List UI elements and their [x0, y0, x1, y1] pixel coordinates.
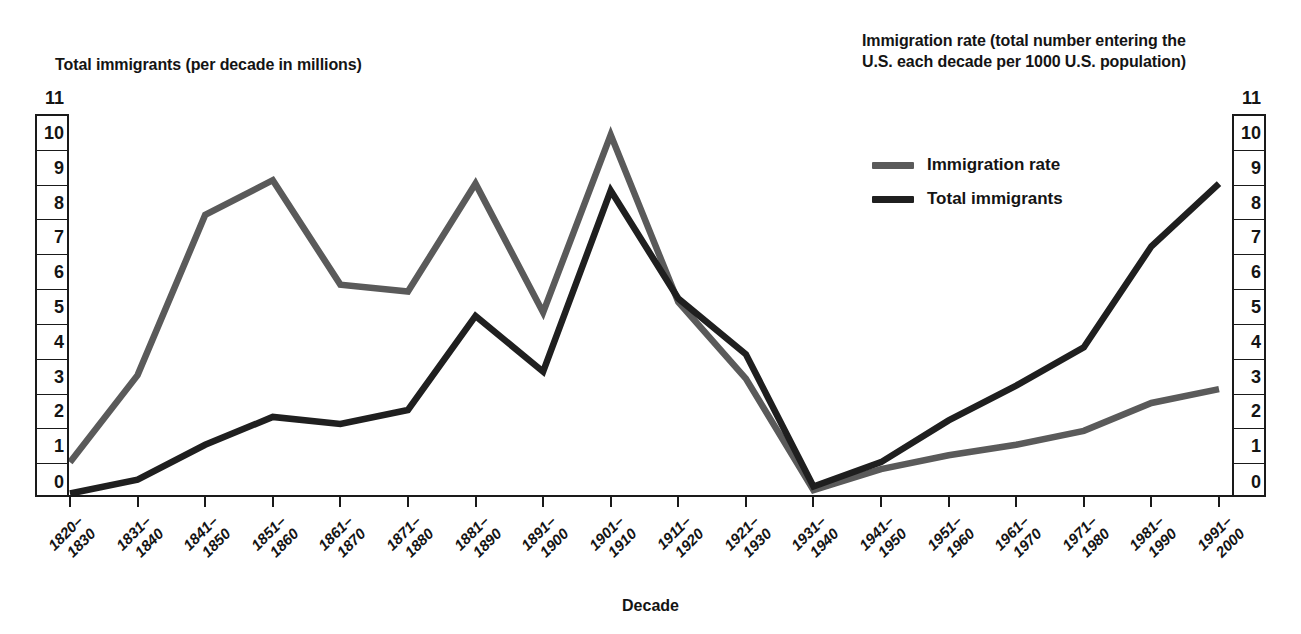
x-axis-tick: [407, 497, 409, 507]
x-axis-tick: [610, 497, 612, 507]
axis-value-label: 6: [1251, 263, 1261, 281]
axis-value-cell: 3: [1234, 360, 1264, 395]
axis-value-cell: 6: [1234, 255, 1264, 290]
axis-value-cell: 1: [1234, 429, 1264, 464]
axis-value-cell: 4: [37, 325, 67, 360]
axis-value-cell: 2: [37, 395, 67, 430]
axis-value-label: 2: [54, 402, 64, 420]
x-axis-tick: [677, 497, 679, 507]
axis-value-cell: 3: [37, 360, 67, 395]
right-value-axis: 109876543210: [1232, 114, 1266, 497]
axis-value-cell: 10: [1234, 116, 1264, 151]
x-axis-tick: [812, 497, 814, 507]
legend-swatch-icon: [872, 162, 914, 169]
chart-legend: Immigration rateTotal immigrants: [872, 148, 1063, 216]
axis-value-label: 7: [54, 228, 64, 246]
x-axis-tick: [204, 497, 206, 507]
axis-value-label: 1: [54, 437, 64, 455]
axis-value-cell: 10: [37, 116, 67, 151]
axis-value-label: 5: [54, 298, 64, 316]
axis-value-label: 10: [44, 124, 64, 142]
x-axis-tick: [880, 497, 882, 507]
axis-value-cell: 6: [37, 255, 67, 290]
legend-item[interactable]: Total immigrants: [872, 182, 1063, 216]
axis-value-cell: 8: [37, 186, 67, 221]
x-axis-baseline: [35, 495, 1234, 497]
axis-value-cell: 2: [1234, 395, 1264, 430]
left-value-axis: 109876543210: [35, 114, 69, 497]
axis-value-cell: 9: [1234, 151, 1264, 186]
axis-value-label: 5: [1251, 298, 1261, 316]
x-axis-tick: [1150, 497, 1152, 507]
x-axis-tick: [1015, 497, 1017, 507]
axis-value-label: 3: [1251, 367, 1261, 385]
x-axis-tick: [69, 497, 71, 507]
legend-label: Immigration rate: [927, 155, 1060, 175]
x-axis-tick: [272, 497, 274, 507]
axis-value-label: 9: [1251, 158, 1261, 176]
legend-item[interactable]: Immigration rate: [872, 148, 1063, 182]
axis-value-cell: 7: [37, 220, 67, 255]
axis-value-label: 2: [1251, 402, 1261, 420]
axis-value-cell: 4: [1234, 325, 1264, 360]
axis-value-label: 4: [54, 332, 64, 350]
right-axis-top-value: 11: [1242, 88, 1261, 109]
x-axis-tick: [339, 497, 341, 507]
x-axis-tick: [542, 497, 544, 507]
x-axis-title: Decade: [0, 597, 1301, 615]
axis-value-cell: 0: [1234, 464, 1264, 499]
legend-swatch-icon: [872, 196, 914, 203]
x-axis-tick: [1218, 497, 1220, 507]
x-axis-tick: [137, 497, 139, 507]
left-axis-top-value: 11: [45, 88, 64, 109]
axis-value-label: 0: [54, 472, 64, 490]
x-axis-tick: [745, 497, 747, 507]
axis-value-label: 7: [1251, 228, 1261, 246]
axis-value-label: 1: [1251, 437, 1261, 455]
axis-value-label: 4: [1251, 332, 1261, 350]
axis-value-label: 8: [1251, 193, 1261, 211]
line-series-total-immigrants: [70, 184, 1219, 494]
axis-value-cell: 5: [1234, 290, 1264, 325]
x-axis-tick: [948, 497, 950, 507]
x-axis-tick: [475, 497, 477, 507]
axis-value-label: 6: [54, 263, 64, 281]
axis-value-label: 3: [54, 367, 64, 385]
axis-value-cell: 9: [37, 151, 67, 186]
x-axis-tick: [1083, 497, 1085, 507]
axis-value-cell: 8: [1234, 186, 1264, 221]
axis-value-label: 0: [1251, 472, 1261, 490]
axis-value-label: 10: [1241, 124, 1261, 142]
legend-label: Total immigrants: [927, 189, 1063, 209]
axis-value-cell: 0: [37, 464, 67, 499]
axis-value-cell: 1: [37, 429, 67, 464]
axis-value-cell: 7: [1234, 220, 1264, 255]
axis-value-label: 8: [54, 193, 64, 211]
axis-value-cell: 5: [37, 290, 67, 325]
axis-value-label: 9: [54, 158, 64, 176]
